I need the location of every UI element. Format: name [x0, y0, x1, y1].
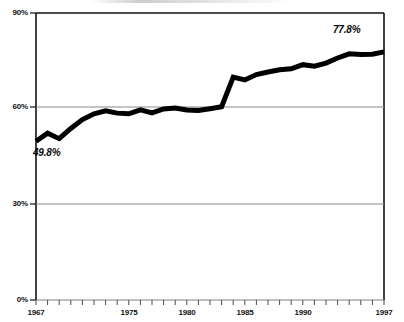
x-axis-label-1967: 1967 — [23, 309, 49, 317]
x-axis-label-1997: 1997 — [371, 309, 397, 317]
y-axis-label-0: 0% — [2, 296, 28, 304]
x-axis-label-1990: 1990 — [290, 309, 316, 317]
x-axis-label-1975: 1975 — [116, 309, 142, 317]
plot-frame — [36, 13, 384, 300]
x-axis-label-1980: 1980 — [174, 309, 200, 317]
gridlines — [36, 107, 384, 204]
y-axis-label-60: 60% — [2, 103, 28, 111]
y-axis-label-90: 90% — [2, 9, 28, 17]
y-axis-label-30: 30% — [2, 200, 28, 208]
x-axis-label-1985: 1985 — [232, 309, 258, 317]
annotation-end-value: 77.8% — [333, 25, 360, 35]
annotation-start-value: 49.8% — [33, 148, 60, 158]
x-tick-marks — [36, 300, 384, 305]
line-chart-plot — [0, 0, 404, 322]
data-series-line — [36, 52, 384, 141]
chart-figure: 90% 60% 30% 0% 1967 1975 1980 1985 1990 … — [0, 0, 404, 322]
